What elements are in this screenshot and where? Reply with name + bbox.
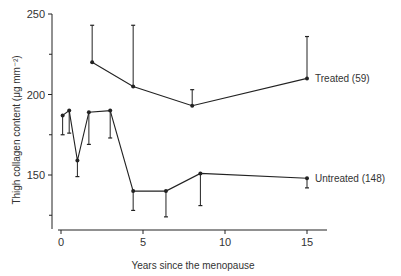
collagen-chart: 150200250051015Years since the menopause…	[0, 0, 401, 276]
data-point	[61, 113, 65, 117]
x-axis-label: Years since the menopause	[131, 260, 254, 271]
data-point	[164, 189, 168, 193]
data-point	[87, 110, 91, 114]
y-tick-label: 150	[27, 169, 45, 181]
series-line	[92, 62, 307, 105]
series-label: Treated (59)	[315, 73, 370, 84]
x-tick-label: 15	[301, 236, 313, 248]
y-tick-label: 200	[27, 89, 45, 101]
data-point	[90, 60, 94, 64]
data-point	[131, 189, 135, 193]
data-point	[190, 104, 194, 108]
data-point	[131, 84, 135, 88]
data-point	[305, 176, 309, 180]
series-line	[63, 111, 307, 192]
x-tick-label: 10	[219, 236, 231, 248]
y-axis-label: Thigh collagen content (μg mm⁻²)	[11, 55, 22, 204]
data-point	[198, 171, 202, 175]
y-tick-label: 250	[27, 8, 45, 20]
data-point	[305, 76, 309, 80]
x-tick-label: 0	[58, 236, 64, 248]
data-point	[75, 159, 79, 163]
data-point	[108, 109, 112, 113]
x-tick-label: 5	[140, 236, 146, 248]
chart-canvas: 150200250051015Years since the menopause…	[0, 0, 401, 276]
data-point	[67, 109, 71, 113]
series-label: Untreated (148)	[315, 173, 385, 184]
